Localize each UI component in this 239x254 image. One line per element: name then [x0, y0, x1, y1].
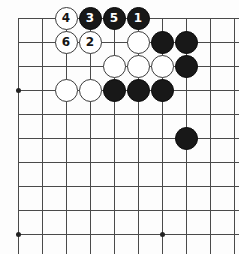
go-board-diagram: 435162: [0, 0, 239, 254]
stone-black-move-3: 3: [79, 7, 102, 30]
grid-line-vertical: [18, 18, 19, 254]
stone-black: [175, 55, 198, 78]
stone-black: [127, 79, 150, 102]
stone-move-number: 5: [110, 12, 118, 24]
stone-move-number: 6: [62, 36, 70, 48]
stone-white: [79, 79, 102, 102]
stone-black-move-1: 1: [127, 7, 150, 30]
grid-line-horizontal: [18, 210, 239, 211]
grid-line-horizontal: [18, 234, 239, 235]
star-point: [160, 232, 165, 237]
stone-move-number: 2: [86, 36, 94, 48]
stone-white: [127, 31, 150, 54]
stone-move-number: 1: [134, 12, 142, 24]
grid-line-horizontal: [18, 138, 239, 139]
grid-line-horizontal: [18, 114, 239, 115]
grid-line-horizontal: [18, 162, 239, 163]
stone-black: [175, 127, 198, 150]
grid-line-horizontal: [18, 186, 239, 187]
stone-move-number: 3: [86, 12, 94, 24]
star-point: [16, 88, 21, 93]
stone-move-number: 4: [62, 12, 70, 24]
grid-line-vertical: [210, 18, 211, 254]
stone-black-move-5: 5: [103, 7, 126, 30]
stone-black: [151, 79, 174, 102]
stone-white-move-2: 2: [79, 31, 102, 54]
stone-white: [151, 55, 174, 78]
stone-white-move-4: 4: [55, 7, 78, 30]
stone-white-move-6: 6: [55, 31, 78, 54]
star-point: [16, 232, 21, 237]
stone-white: [55, 79, 78, 102]
grid-line-vertical: [234, 18, 235, 254]
stone-black: [103, 79, 126, 102]
grid-line-vertical: [114, 18, 115, 254]
stone-black: [151, 31, 174, 54]
stone-black: [175, 31, 198, 54]
stone-white: [103, 55, 126, 78]
grid-line-vertical: [42, 18, 43, 254]
stone-white: [127, 55, 150, 78]
